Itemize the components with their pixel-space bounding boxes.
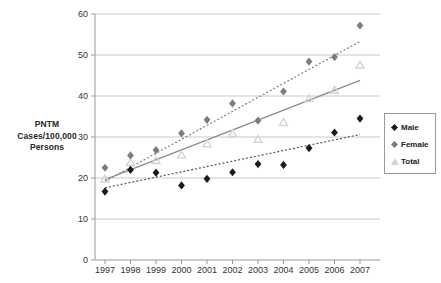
chart-legend: Male Female Total xyxy=(384,113,436,174)
total-triangle-marker-icon xyxy=(389,156,400,167)
data-point-total-1998 xyxy=(127,159,135,166)
data-point-female-1998 xyxy=(127,151,134,159)
legend-item-female: Female xyxy=(389,136,435,153)
y-tick-label: 10 xyxy=(62,215,88,224)
data-point-female-2004 xyxy=(280,87,287,95)
data-point-total-2003 xyxy=(254,135,262,142)
y-tick-label: 20 xyxy=(62,174,88,183)
data-point-male-2002 xyxy=(229,168,236,176)
data-point-female-1997 xyxy=(102,164,109,172)
data-point-total-2004 xyxy=(280,119,288,126)
data-point-female-2002 xyxy=(229,99,236,107)
data-point-total-2007 xyxy=(356,61,364,68)
legend-item-total: Total xyxy=(389,153,435,170)
data-point-female-1999 xyxy=(153,146,160,154)
data-point-male-2004 xyxy=(280,161,287,169)
data-point-male-2007 xyxy=(357,114,364,122)
data-point-female-2001 xyxy=(204,116,211,124)
data-point-male-2001 xyxy=(204,175,211,183)
male-diamond-marker-icon xyxy=(389,122,400,133)
legend-label-male: Male xyxy=(401,123,419,132)
trendline-female xyxy=(105,41,360,181)
data-point-total-2000 xyxy=(178,151,186,158)
data-point-male-2006 xyxy=(331,128,338,136)
data-point-female-2005 xyxy=(306,57,313,65)
data-point-female-2003 xyxy=(255,117,262,125)
data-point-male-1998 xyxy=(127,166,134,174)
y-tick-label: 30 xyxy=(62,133,88,142)
data-point-female-2000 xyxy=(178,129,185,137)
data-point-male-1999 xyxy=(153,169,160,177)
data-point-male-2003 xyxy=(255,160,262,168)
data-point-female-2007 xyxy=(357,21,364,29)
legend-label-female: Female xyxy=(401,140,429,149)
data-point-male-2000 xyxy=(178,181,185,189)
y-axis-title-line-3: Persons xyxy=(4,142,90,154)
chart-container: PNTM Cases/100,000 Persons 0102030405060… xyxy=(0,0,441,283)
plot-svg xyxy=(95,14,380,260)
y-tick-label: 0 xyxy=(62,256,88,265)
y-axis-title-line-1: PNTM xyxy=(4,119,90,131)
data-point-male-1997 xyxy=(102,187,109,195)
y-tick-label: 60 xyxy=(62,10,88,19)
y-tick-label: 40 xyxy=(62,92,88,101)
legend-item-male: Male xyxy=(389,119,435,136)
x-tick-label: 2007 xyxy=(343,265,377,275)
trendline-male xyxy=(105,135,360,188)
female-diamond-marker-icon xyxy=(389,139,400,150)
data-point-male-2005 xyxy=(306,144,313,152)
legend-label-total: Total xyxy=(401,157,420,166)
y-tick-label: 50 xyxy=(62,51,88,60)
plot-area xyxy=(95,14,380,260)
